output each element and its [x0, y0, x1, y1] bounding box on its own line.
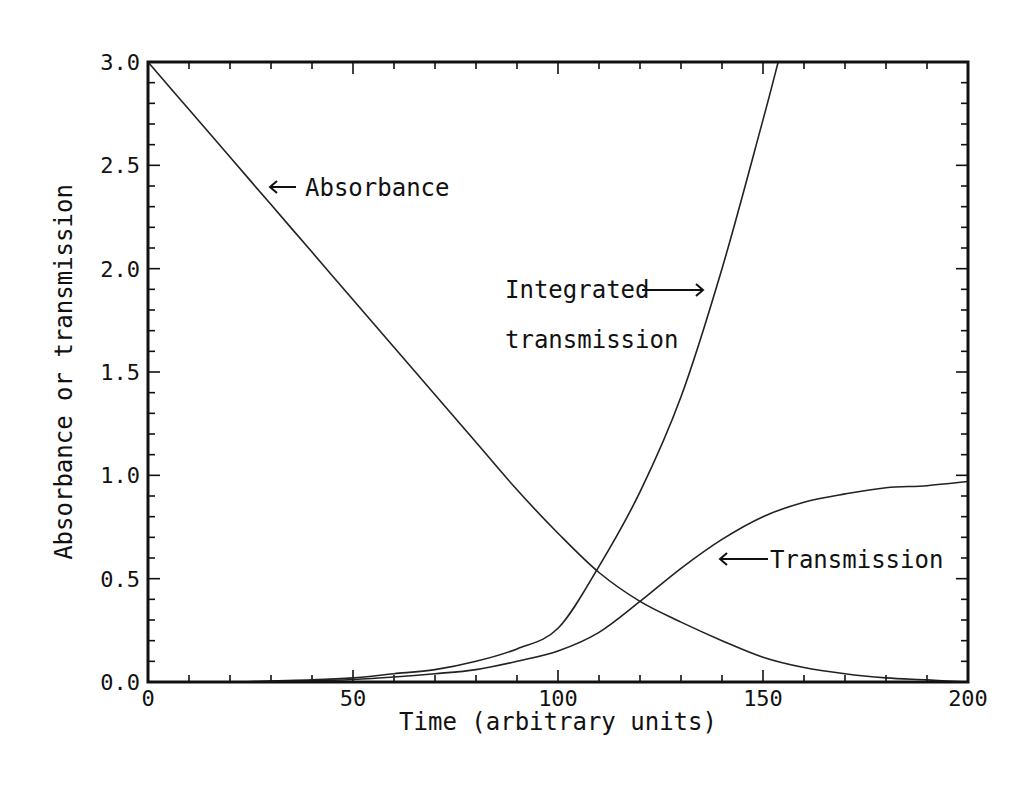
left-arrow-icon	[270, 181, 296, 193]
axis-ticks	[148, 62, 968, 682]
right-arrow-icon	[642, 284, 703, 296]
x-tick-label: 200	[948, 686, 988, 711]
annotation-absorbance-label: Absorbance	[305, 174, 450, 202]
y-tick-label: 1.5	[100, 360, 140, 385]
annotation-absorbance: Absorbance	[270, 174, 450, 202]
transmission-curve	[148, 482, 968, 683]
absorbance-curve	[148, 62, 968, 682]
annotation-transmission-label: Transmission	[770, 546, 943, 574]
y-tick-labels: 0.00.51.01.52.02.53.0	[100, 50, 140, 695]
annotation-integrated-label-line1: Integrated	[505, 276, 650, 304]
plot-frame	[148, 62, 968, 682]
y-tick-label: 2.5	[100, 153, 140, 178]
annotation-integrated-label-line2: transmission	[505, 326, 678, 354]
chart: 050100150200 0.00.51.01.52.02.53.0 Time …	[0, 0, 1021, 808]
x-axis-label: Time (arbitrary units)	[399, 708, 717, 736]
integrated-transmission-curve	[148, 62, 778, 682]
plot-curves	[148, 62, 968, 682]
annotation-transmission: Transmission	[720, 546, 943, 574]
x-tick-label: 150	[743, 686, 783, 711]
y-tick-label: 0.0	[100, 670, 140, 695]
y-tick-label: 1.0	[100, 463, 140, 488]
annotation-integrated-transmission: Integrated transmission	[505, 276, 703, 354]
x-tick-label: 50	[340, 686, 367, 711]
left-arrow-icon	[720, 553, 768, 565]
y-tick-label: 3.0	[100, 50, 140, 75]
y-axis-label: Absorbance or transmission	[50, 184, 78, 560]
x-tick-label: 0	[141, 686, 154, 711]
y-tick-label: 2.0	[100, 257, 140, 282]
y-tick-label: 0.5	[100, 567, 140, 592]
